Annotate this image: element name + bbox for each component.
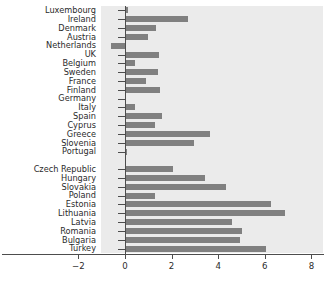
category-tick-mark [118, 116, 125, 117]
category-tick-mark [118, 231, 125, 232]
category-label: Greece [0, 130, 96, 138]
category-tick-mark [118, 10, 125, 11]
category-tick-mark [118, 187, 125, 188]
category-label: Turkey [0, 244, 96, 252]
category-axis-labels: LuxembourgIrelandDenmarkAustriaNetherlan… [0, 6, 96, 253]
category-label: Romania [0, 227, 96, 235]
value-tick-mark [125, 255, 126, 259]
bar [125, 228, 242, 234]
value-axis-line [2, 254, 324, 255]
value-tick-mark [78, 255, 79, 259]
category-label: Netherlands [0, 41, 96, 49]
bar [125, 175, 205, 181]
category-tick-mark [118, 63, 125, 64]
value-tick-label: 0 [113, 261, 137, 271]
category-tick-mark [118, 222, 125, 223]
value-tick-label: 6 [253, 261, 277, 271]
bar [125, 122, 155, 128]
zero-reference-line [125, 6, 126, 255]
value-tick-mark [265, 255, 266, 259]
bar [125, 210, 285, 216]
category-tick-mark [118, 55, 125, 56]
category-tick-mark [118, 134, 125, 135]
category-label: Czech Republic [0, 165, 96, 173]
category-tick-mark [118, 196, 125, 197]
bar [125, 184, 226, 190]
category-label: Ireland [0, 15, 96, 23]
bar [125, 113, 162, 119]
value-tick-label: 2 [160, 261, 184, 271]
category-tick-mark [118, 99, 125, 100]
value-tick-label: 8 [299, 261, 323, 271]
category-tick-mark [118, 28, 125, 29]
bar [125, 237, 240, 243]
category-label: Latvia [0, 218, 96, 226]
value-tick-label: 4 [206, 261, 230, 271]
category-tick-mark [118, 169, 125, 170]
bar [125, 104, 135, 110]
bar [125, 69, 158, 75]
category-tick-mark [118, 37, 125, 38]
category-label: Denmark [0, 24, 96, 32]
bar [125, 52, 159, 58]
bars-layer [101, 6, 323, 253]
bar [125, 131, 210, 137]
category-tick-mark [118, 143, 125, 144]
category-tick-mark [118, 90, 125, 91]
value-tick-label: −2 [66, 261, 90, 271]
category-tick-mark [118, 125, 125, 126]
category-label: Cyprus [0, 121, 96, 129]
value-tick-mark [172, 255, 173, 259]
bar [125, 60, 135, 66]
bar [125, 16, 188, 22]
bar [125, 193, 155, 199]
category-tick-mark [118, 81, 125, 82]
category-label: Portugal [0, 147, 96, 155]
category-tick-mark [118, 249, 125, 250]
category-tick-mark [118, 152, 125, 153]
bar [125, 219, 232, 225]
category-tick-mark [118, 107, 125, 108]
bar [125, 140, 194, 146]
category-tick-mark [118, 213, 125, 214]
category-label: Hungary [0, 174, 96, 182]
bar [125, 87, 160, 93]
bar [125, 166, 173, 172]
category-label: Sweden [0, 68, 96, 76]
bar-chart: LuxembourgIrelandDenmarkAustriaNetherlan… [0, 0, 331, 281]
category-label: France [0, 77, 96, 85]
bar [125, 78, 146, 84]
bar [125, 34, 148, 40]
category-tick-mark [118, 204, 125, 205]
bar [125, 246, 266, 252]
value-tick-mark [311, 255, 312, 259]
category-tick-mark [118, 240, 125, 241]
bar [125, 201, 271, 207]
bar [111, 43, 125, 49]
category-tick-mark [118, 72, 125, 73]
value-tick-mark [218, 255, 219, 259]
category-tick-mark [118, 19, 125, 20]
category-tick-mark [118, 178, 125, 179]
bar [125, 25, 156, 31]
